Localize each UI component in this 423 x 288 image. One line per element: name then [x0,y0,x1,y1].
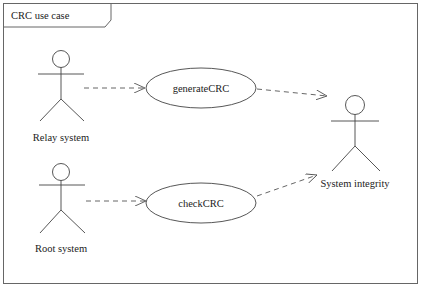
actor-relay-system[interactable]: Relay system [33,51,89,144]
stick-figure-icon [38,51,84,122]
use-case-check-crc[interactable]: checkCRC [146,183,256,223]
stick-figure-icon [39,164,85,234]
relation-generate-to-integrity [257,89,327,96]
use-case-label: checkCRC [178,198,224,209]
frame-title: CRC use case [11,10,70,21]
actor-system-integrity[interactable]: System integrity [320,96,390,190]
actor-root-system[interactable]: Root system [35,164,87,255]
actor-label: System integrity [320,178,390,189]
actor-label: Root system [35,243,87,254]
stick-figure-icon [331,96,380,172]
use-case-generate-crc[interactable]: generateCRC [146,68,256,108]
use-case-diagram: CRC use case Relay system Root system [0,0,423,288]
relation-check-to-integrity [257,175,317,196]
actor-label: Relay system [33,132,89,143]
use-case-label: generateCRC [173,83,230,94]
